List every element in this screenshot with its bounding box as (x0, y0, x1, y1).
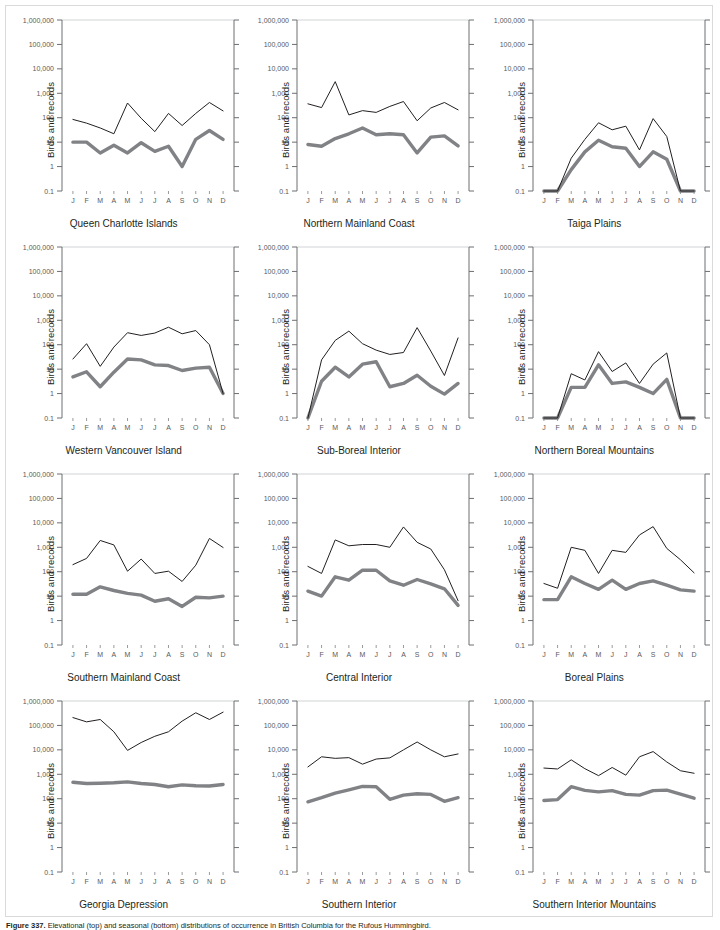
x-tick-label: A (347, 651, 352, 658)
y-tick-label: 0.1 (280, 642, 290, 649)
x-tick-label: J (610, 878, 614, 885)
y-tick-label: 1,000,000 (23, 244, 54, 251)
chart-canvas: 1,000,000100,00010,0001,0001001010.1JFMA… (6, 6, 241, 233)
x-tick-label: J (153, 197, 157, 204)
x-tick-label: M (360, 197, 366, 204)
series-birds (308, 128, 458, 153)
x-tick-label: O (664, 651, 670, 658)
x-tick-label: J (139, 878, 143, 885)
x-tick-label: F (555, 424, 559, 431)
x-tick-label: O (428, 651, 434, 658)
y-tick-label: 10,000 (33, 519, 55, 526)
y-tick-label: 1 (50, 163, 54, 170)
series-birds (73, 359, 223, 394)
y-tick-label: 1 (285, 844, 289, 851)
x-tick-label: M (125, 651, 131, 658)
x-tick-label: N (678, 424, 683, 431)
x-tick-label: D (456, 424, 461, 431)
y-tick-label: 100,000 (264, 495, 289, 502)
panel-title: Southern Interior Mountains (477, 899, 712, 910)
x-tick-label: A (112, 651, 117, 658)
y-axis-label: Birds and records (515, 762, 526, 838)
chart-canvas: 1,000,000100,00010,0001,0001001010.1JFMA… (6, 460, 241, 687)
figure-frame: 1,000,000100,00010,0001,0001001010.1JFMA… (5, 5, 713, 917)
x-tick-label: A (401, 424, 406, 431)
x-tick-label: F (84, 197, 88, 204)
x-tick-label: N (442, 424, 447, 431)
x-tick-label: M (568, 197, 574, 204)
series-birds (73, 130, 223, 166)
x-tick-label: J (306, 878, 310, 885)
x-tick-label: J (542, 878, 546, 885)
x-tick-label: A (582, 197, 587, 204)
y-tick-label: 1 (50, 844, 54, 851)
x-tick-label: F (555, 878, 559, 885)
x-tick-label: F (320, 197, 324, 204)
y-tick-label: 10,000 (503, 519, 525, 526)
x-tick-label: F (84, 878, 88, 885)
x-tick-label: D (456, 651, 461, 658)
y-tick-label: 10,000 (503, 65, 525, 72)
x-tick-label: J (375, 651, 379, 658)
series-records (73, 102, 223, 133)
x-tick-label: S (180, 651, 185, 658)
x-tick-label: N (207, 424, 212, 431)
y-tick-label: 10,000 (33, 292, 55, 299)
chart-canvas: 1,000,000100,00010,0001,0001001010.1JFMA… (241, 460, 476, 687)
x-tick-label: S (415, 878, 420, 885)
x-tick-label: J (153, 651, 157, 658)
x-tick-label: N (678, 197, 683, 204)
x-tick-label: J (375, 424, 379, 431)
chart-panel: 1,000,000100,00010,0001,0001001010.1JFMA… (477, 460, 712, 687)
x-tick-label: J (306, 197, 310, 204)
x-tick-label: M (97, 424, 103, 431)
y-tick-label: 100,000 (29, 41, 54, 48)
x-tick-label: O (193, 878, 199, 885)
y-tick-label: 100,000 (264, 722, 289, 729)
x-tick-label: S (180, 197, 185, 204)
x-tick-label: O (193, 197, 199, 204)
x-tick-label: J (139, 651, 143, 658)
series-birds (73, 587, 223, 607)
x-tick-label: A (166, 651, 171, 658)
chart-panel: 1,000,000100,00010,0001,0001001010.1JFMA… (477, 233, 712, 460)
x-tick-label: J (624, 651, 628, 658)
y-tick-label: 1 (521, 617, 525, 624)
x-tick-label: M (97, 651, 103, 658)
x-tick-label: N (678, 651, 683, 658)
x-tick-label: A (637, 424, 642, 431)
x-tick-label: N (678, 878, 683, 885)
x-tick-label: M (333, 424, 339, 431)
x-tick-label: S (415, 197, 420, 204)
series-records (73, 712, 223, 750)
x-tick-label: J (139, 424, 143, 431)
x-tick-label: O (664, 878, 670, 885)
x-tick-label: A (582, 651, 587, 658)
panel-title: Southern Mainland Coast (6, 672, 241, 683)
y-axis-label: Birds and records (515, 81, 526, 157)
x-tick-label: N (207, 197, 212, 204)
x-tick-label: A (112, 878, 117, 885)
y-tick-label: 1 (521, 390, 525, 397)
y-axis-label: Birds and records (45, 762, 56, 838)
chart-panel: 1,000,000100,00010,0001,0001001010.1JFMA… (241, 460, 476, 687)
y-tick-label: 1 (285, 617, 289, 624)
x-tick-label: M (568, 878, 574, 885)
chart-canvas: 1,000,000100,00010,0001,0001001010.1JFMA… (241, 233, 476, 460)
x-tick-label: J (71, 878, 75, 885)
y-tick-label: 0.1 (280, 415, 290, 422)
x-tick-label: A (112, 197, 117, 204)
x-tick-label: M (595, 651, 601, 658)
y-tick-label: 0.1 (515, 415, 525, 422)
panel-title: Western Vancouver Island (6, 445, 241, 456)
x-tick-label: D (691, 424, 696, 431)
y-axis-label: Birds and records (515, 535, 526, 611)
x-tick-label: J (306, 651, 310, 658)
y-tick-label: 100,000 (29, 495, 54, 502)
x-tick-label: S (415, 651, 420, 658)
x-tick-label: F (84, 424, 88, 431)
x-tick-label: J (542, 197, 546, 204)
x-tick-label: D (221, 424, 226, 431)
x-tick-label: J (624, 878, 628, 885)
x-tick-label: A (347, 878, 352, 885)
